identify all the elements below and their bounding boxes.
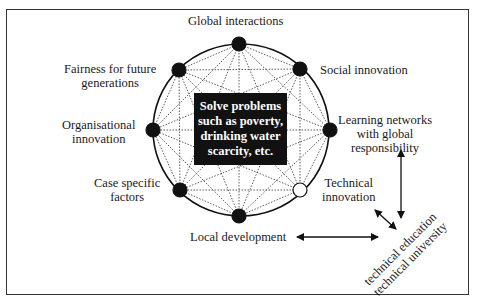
label-line: Technical — [322, 176, 375, 190]
label-social-innovation: Social innovation — [320, 63, 408, 77]
label-line: Fairness for future — [64, 62, 156, 76]
node-global — [232, 37, 246, 51]
center-line: scarcity, etc. — [198, 144, 283, 159]
label-line: Learning networks — [338, 113, 432, 127]
node-technical — [293, 183, 307, 197]
node-case — [173, 183, 187, 197]
node-social — [293, 62, 307, 76]
node-org — [146, 123, 160, 137]
label-case-specific-factors: Case specific factors — [94, 176, 160, 204]
label-line: generations — [64, 76, 156, 90]
center-problem-box: Solve problems such as poverty, drinking… — [194, 93, 287, 165]
arrow-diagonal — [375, 210, 396, 229]
center-line: Solve problems — [198, 99, 283, 114]
label-line: factors — [94, 190, 160, 204]
label-line: Organisational — [62, 118, 135, 132]
label-fairness-future-generations: Fairness for future generations — [64, 62, 156, 90]
label-organisational-innovation: Organisational innovation — [62, 118, 135, 146]
label-local-development: Local development — [190, 230, 286, 244]
node-learning — [323, 123, 337, 137]
node-fairness — [172, 63, 186, 77]
center-line: such as poverty, — [198, 114, 283, 129]
label-line: innovation — [62, 132, 135, 146]
label-line: with global — [338, 127, 432, 141]
label-line: Case specific — [94, 176, 160, 190]
center-line: drinking water — [198, 129, 283, 144]
label-line: innovation — [322, 190, 375, 204]
label-technical-innovation: Technical innovation — [322, 176, 375, 204]
node-local — [232, 209, 246, 223]
label-line: responsibility — [338, 141, 432, 155]
label-learning-networks: Learning networks with global responsibi… — [338, 113, 432, 155]
label-global-interactions: Global interactions — [188, 14, 283, 28]
